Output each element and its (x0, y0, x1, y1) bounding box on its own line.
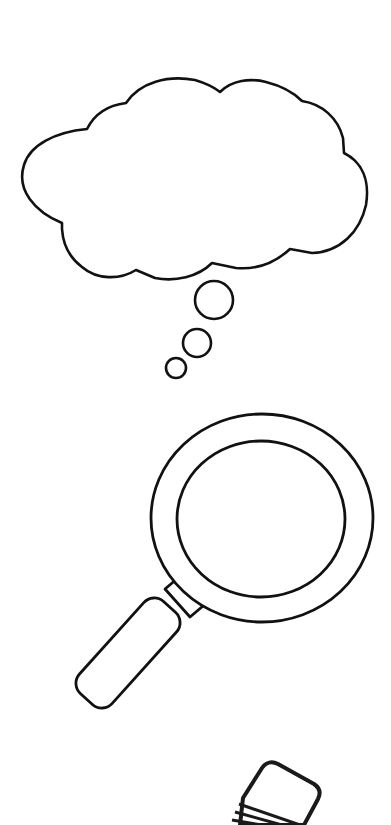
magnifying-glass-icon (70, 414, 373, 714)
thought-trail-icon (166, 281, 233, 378)
pencil-eraser-icon (232, 762, 320, 825)
thought-bubble-icon (22, 78, 367, 279)
illustration-canvas (0, 0, 391, 825)
